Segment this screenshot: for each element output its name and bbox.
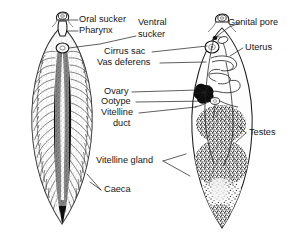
label-ventral-sucker-line1: Ventral xyxy=(138,17,167,27)
label-uterus: Uterus xyxy=(245,42,272,52)
label-caeca: Caeca xyxy=(104,184,131,194)
label-vitelline-duct-line2: duct xyxy=(113,118,131,128)
label-vitelline-gland: Vitelline gland xyxy=(96,155,153,165)
anterior-testis xyxy=(196,105,246,143)
label-vas-deferens: Vas deferens xyxy=(97,57,151,67)
label-genital-pore: Genital pore xyxy=(228,17,278,27)
label-ventral-sucker-line2: sucker xyxy=(138,29,165,39)
label-ootype: Ootype xyxy=(101,96,131,106)
label-oral-sucker: Oral sucker xyxy=(79,14,126,24)
label-testes: Testes xyxy=(249,127,276,137)
anatomy-figure: Oral sucker Pharynx Ventral sucker Cirru… xyxy=(0,0,301,245)
label-cirrus-sac: Cirrus sac xyxy=(104,46,146,56)
left-ventral-sucker xyxy=(56,43,69,53)
label-ovary: Ovary xyxy=(104,86,129,96)
left-pharynx xyxy=(58,21,67,36)
label-pharynx: Pharynx xyxy=(79,25,113,35)
label-vitelline-duct-line1: Vitelline xyxy=(101,107,133,117)
